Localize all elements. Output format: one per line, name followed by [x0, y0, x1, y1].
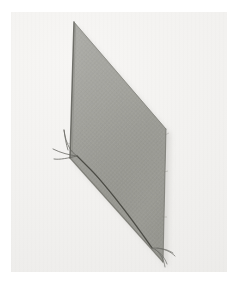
fabric-specimen-layer [11, 12, 227, 272]
fabric-specimen-illustration [11, 12, 227, 272]
photograph-plate: Photograph of an irregular quadrilateral… [11, 12, 227, 272]
photo-frame: Photograph of an irregular quadrilateral… [0, 0, 238, 286]
fabric-body [11, 12, 227, 272]
